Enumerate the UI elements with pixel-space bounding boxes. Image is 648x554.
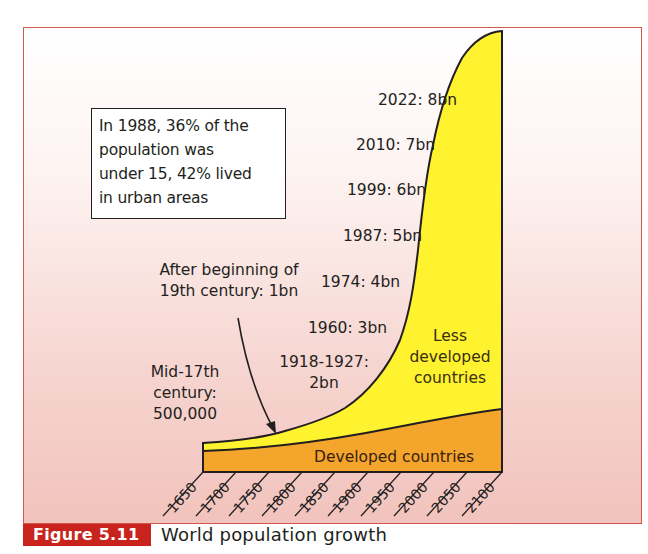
note-line: In 1988, 36% of the — [99, 114, 278, 138]
label-19th-line2: 19th century: 1bn — [143, 281, 315, 302]
label-less-developed: Less developed countries — [405, 326, 495, 389]
label-2022: 2022: 8bn — [378, 90, 457, 111]
note-box: In 1988, 36% of the population was under… — [91, 108, 286, 219]
figure-number-badge: Figure 5.11 — [23, 524, 151, 546]
label-19th-century: After beginning of 19th century: 1bn — [143, 260, 315, 302]
label-2010: 2010: 7bn — [356, 135, 435, 156]
note-line: population was — [99, 138, 278, 162]
label-1974: 1974: 4bn — [321, 272, 400, 293]
label-1999: 1999: 6bn — [347, 180, 426, 201]
figure-title: World population growth — [161, 523, 387, 547]
label-1918-line1: 1918-1927: — [272, 352, 376, 373]
less-developed-area — [203, 31, 502, 472]
label-1918-line2: 2bn — [272, 373, 376, 394]
label-19th-line1: After beginning of — [143, 260, 315, 281]
note-line: under 15, 42% lived — [99, 162, 278, 186]
label-mid17-line1: Mid-17th — [140, 362, 230, 383]
label-1960: 1960: 3bn — [308, 318, 387, 339]
annotation-arrow — [238, 318, 273, 428]
label-developed: Developed countries — [314, 447, 474, 468]
label-mid17-line2: century: — [140, 383, 230, 404]
label-1918-1927: 1918-1927: 2bn — [272, 352, 376, 394]
label-mid17-line3: 500,000 — [140, 404, 230, 425]
note-line: in urban areas — [99, 186, 278, 210]
less-line1: Less — [405, 326, 495, 347]
less-line3: countries — [405, 368, 495, 389]
label-mid-17th: Mid-17th century: 500,000 — [140, 362, 230, 425]
less-line2: developed — [405, 347, 495, 368]
arrow-head-icon — [266, 421, 276, 434]
label-1987: 1987: 5bn — [343, 226, 422, 247]
